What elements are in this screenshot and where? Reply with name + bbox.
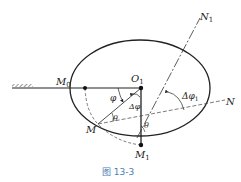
fixed-wall-hatch [12,84,33,87]
label-phi: φ [110,93,117,103]
label-theta-left: θ [113,114,118,123]
label-N1: N1 [199,11,213,24]
diagram-figure: M0 O1 M M1 N N1 φ Δφ Δφ1 θ θ 图 13-3 [0,0,241,182]
line-N1 [137,18,200,138]
label-delta-phi1: Δφ1 [181,91,199,102]
point-left-dot [83,86,87,90]
figure-caption: 图 13-3 [102,167,134,177]
label-N: N [225,96,236,107]
label-theta-right: θ [144,121,149,130]
label-M1: M1 [134,149,150,162]
label-M: M [85,124,97,135]
point-M1 [139,143,143,147]
label-O1: O1 [131,73,144,86]
label-delta-phi: Δφ [128,102,141,111]
point-O1 [139,86,143,90]
label-M0: M0 [55,76,71,89]
phi-arc [118,88,123,102]
